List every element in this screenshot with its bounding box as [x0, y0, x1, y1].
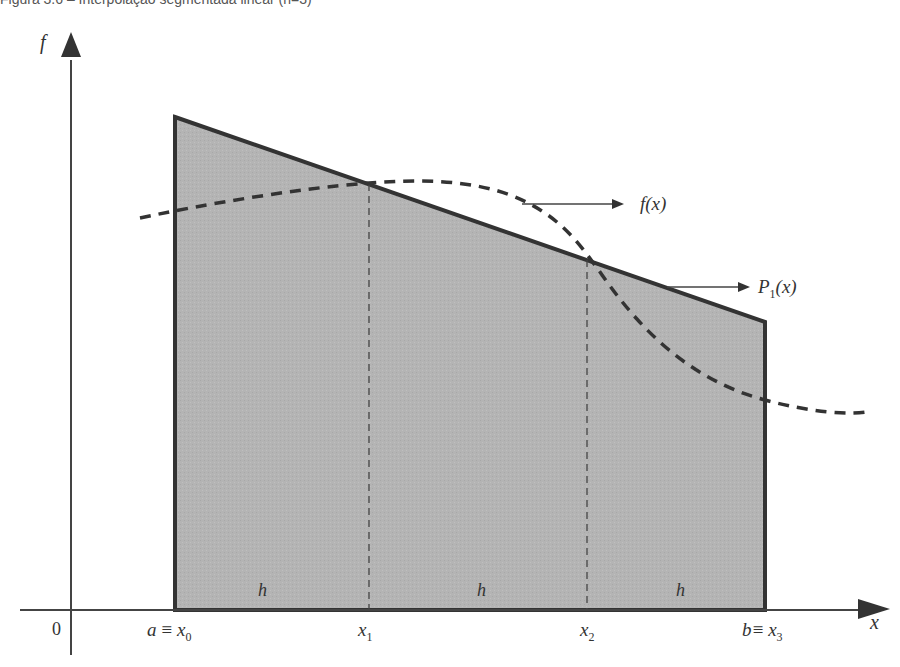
node-label-x1: x1 — [357, 619, 372, 644]
y-axis-label: f — [40, 31, 48, 54]
fx-arrowhead-icon — [612, 199, 624, 209]
node-label-x3: b≡ x3 — [742, 619, 783, 644]
trapezoid-rule-diagram: f x 0 f(x) P1(x) h h h a ≡ x0 x1 x2 b≡ x… — [0, 0, 900, 667]
step-label-h-1: h — [258, 580, 267, 600]
p1-arrowhead-icon — [738, 282, 750, 292]
y-axis-arrowhead-icon — [61, 32, 81, 57]
fx-label: f(x) — [640, 193, 666, 215]
step-label-h-2: h — [477, 580, 486, 600]
node-label-x2: x2 — [579, 619, 594, 644]
x-axis-label: x — [869, 611, 879, 633]
p1-label: P1(x) — [757, 276, 797, 301]
node-label-x0: a ≡ x0 — [147, 619, 191, 644]
shaded-area-under-p1 — [175, 117, 765, 610]
origin-label: 0 — [52, 619, 61, 639]
step-label-h-3: h — [676, 580, 685, 600]
